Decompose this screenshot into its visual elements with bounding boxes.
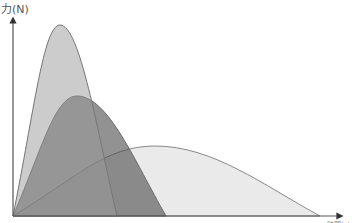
x-axis-label: 時間(s) xyxy=(327,219,350,223)
force-time-chart: 力(N) 時間(s) xyxy=(0,0,352,223)
series-layer xyxy=(13,25,320,216)
chart-canvas xyxy=(0,0,352,223)
y-axis-label: 力(N) xyxy=(1,0,29,16)
